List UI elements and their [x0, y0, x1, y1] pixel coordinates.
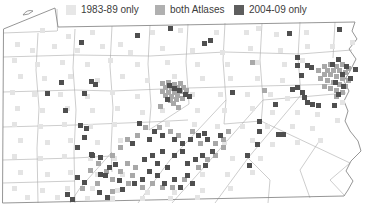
legend-label-2004-09-only: 2004-09 only — [249, 4, 307, 15]
map-legend: 1983-89 only both Atlases 2004-09 only — [0, 4, 374, 18]
legend-swatch-2004-09-only-icon — [234, 5, 244, 15]
atlas-change-map-figure: 1983-89 only both Atlases 2004-09 only — [0, 0, 374, 213]
legend-swatch-both-atlases-icon — [155, 5, 165, 15]
legend-label-1983-89-only: 1983-89 only — [81, 4, 139, 15]
legend-label-both-atlases: both Atlases — [170, 4, 224, 15]
legend-item-both-atlases: both Atlases — [155, 4, 224, 15]
pennsylvania-map — [0, 0, 374, 213]
atlas-block-squares — [10, 26, 358, 202]
legend-item-2004-09-only: 2004-09 only — [234, 4, 307, 15]
state-outline — [3, 8, 362, 203]
legend-swatch-1983-89-only-icon — [66, 5, 76, 15]
legend-item-1983-89-only: 1983-89 only — [66, 4, 139, 15]
